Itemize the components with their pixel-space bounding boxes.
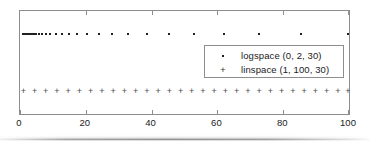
data-point-dot xyxy=(98,33,100,35)
x-tick-top xyxy=(283,11,284,15)
data-point-plus: + xyxy=(178,87,183,96)
data-point-plus: + xyxy=(324,87,329,96)
data-point-dot xyxy=(49,33,51,35)
legend-label-logspace: logspace (0, 2, 30) xyxy=(241,50,322,61)
data-point-plus: + xyxy=(290,87,295,96)
data-point-dot xyxy=(45,33,47,35)
data-point-dot xyxy=(41,33,43,35)
x-tick-top xyxy=(348,11,349,15)
data-point-plus: + xyxy=(144,87,149,96)
data-point-dot xyxy=(111,33,113,35)
data-point-dot xyxy=(223,33,225,35)
data-point-plus: + xyxy=(279,87,284,96)
data-point-plus: + xyxy=(335,87,340,96)
x-tick-bottom xyxy=(217,110,218,114)
data-point-plus: + xyxy=(133,87,138,96)
x-tick-bottom xyxy=(86,110,87,114)
data-point-dot xyxy=(127,33,129,35)
data-point-plus: + xyxy=(245,87,250,96)
data-point-dot xyxy=(193,33,195,35)
data-point-plus: + xyxy=(212,87,217,96)
data-point-dot xyxy=(146,33,148,35)
data-point-plus: + xyxy=(268,87,273,96)
data-point-plus: + xyxy=(32,87,37,96)
legend-marker-dot-icon xyxy=(205,51,241,61)
data-point-dot xyxy=(55,33,57,35)
data-point-plus: + xyxy=(54,87,59,96)
data-point-plus: + xyxy=(301,87,306,96)
x-tick-top xyxy=(217,11,218,15)
x-tick-bottom xyxy=(20,110,21,114)
figure-canvas: ++++++++++++++++++++++++++++++ 020406080… xyxy=(0,0,370,141)
data-point-dot xyxy=(258,33,260,35)
x-tick-label: 100 xyxy=(340,117,356,128)
x-tick-top xyxy=(86,11,87,15)
data-point-plus: + xyxy=(122,87,127,96)
data-point-plus: + xyxy=(234,87,239,96)
x-tick-bottom xyxy=(348,110,349,114)
data-point-dot xyxy=(168,33,170,35)
data-point-plus: + xyxy=(189,87,194,96)
x-tick-label: 60 xyxy=(211,117,222,128)
legend-label-linspace: linspace (1, 100, 30) xyxy=(241,64,329,75)
data-point-plus: + xyxy=(88,87,93,96)
x-tick-label: 80 xyxy=(277,117,288,128)
chart-legend: logspace (0, 2, 30) + linspace (1, 100, … xyxy=(204,45,344,78)
data-point-plus: + xyxy=(21,87,26,96)
legend-entry-logspace: logspace (0, 2, 30) xyxy=(205,48,343,63)
data-point-plus: + xyxy=(66,87,71,96)
data-point-plus: + xyxy=(223,87,228,96)
data-point-plus: + xyxy=(77,87,82,96)
data-point-plus: + xyxy=(200,87,205,96)
x-tick-label: 0 xyxy=(16,117,21,128)
data-point-plus: + xyxy=(155,87,160,96)
page-edge-shadow-fade xyxy=(0,134,370,141)
data-point-dot xyxy=(86,33,88,35)
x-tick-label: 20 xyxy=(80,117,91,128)
data-point-plus: + xyxy=(99,87,104,96)
x-tick-bottom xyxy=(152,110,153,114)
data-point-dot xyxy=(347,33,349,35)
data-point-dot xyxy=(61,33,63,35)
data-point-dot xyxy=(35,33,37,35)
legend-marker-plus-icon: + xyxy=(205,65,241,75)
data-point-dot xyxy=(300,33,302,35)
x-tick-bottom xyxy=(283,110,284,114)
data-point-plus: + xyxy=(345,87,350,96)
data-point-dot xyxy=(68,33,70,35)
legend-entry-linspace: + linspace (1, 100, 30) xyxy=(205,62,343,77)
data-point-plus: + xyxy=(111,87,116,96)
data-point-plus: + xyxy=(43,87,48,96)
data-point-plus: + xyxy=(257,87,262,96)
data-point-plus: + xyxy=(167,87,172,96)
data-point-dot xyxy=(76,33,78,35)
data-point-plus: + xyxy=(313,87,318,96)
x-tick-label: 40 xyxy=(145,117,156,128)
x-tick-top xyxy=(152,11,153,15)
data-point-dot xyxy=(38,33,40,35)
